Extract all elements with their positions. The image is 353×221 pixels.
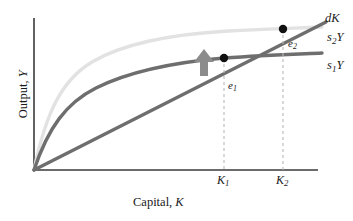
curve-label-s2Y: s2Y	[327, 31, 343, 46]
x-tick-label-k1: K1	[217, 174, 229, 188]
curve-label-dK: dK	[325, 12, 340, 25]
point-e1	[220, 54, 228, 62]
point-label-e2: e2	[288, 38, 297, 51]
curve-s1Y	[34, 53, 322, 170]
chart-canvas	[0, 0, 353, 221]
curve-label-s1Y: s1Y	[327, 59, 343, 74]
x-axis-title: Capital, K	[133, 196, 184, 209]
point-e2	[279, 25, 287, 33]
point-label-e1: e1	[228, 80, 237, 93]
line-dK	[34, 22, 326, 170]
solow-model-figure: dK s2Y s1Y e1 e2 K1 K2 Capital, K Output…	[0, 0, 353, 221]
y-axis-title: Output, Y	[17, 49, 30, 139]
x-tick-label-k2: K2	[276, 174, 288, 188]
